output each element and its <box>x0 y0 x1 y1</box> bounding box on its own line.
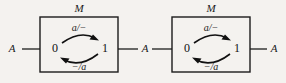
signal-middle-label: A <box>141 42 149 54</box>
state-0-label: 0 <box>184 41 190 55</box>
machine-label: M <box>205 2 216 14</box>
transition-label-one-to-zero: −/a <box>204 61 219 72</box>
state-1-label: 1 <box>102 41 108 55</box>
transition-label-zero-to-one: a/− <box>72 22 87 33</box>
state-0-label: 0 <box>52 41 58 55</box>
transition-label-zero-to-one: a/− <box>204 22 219 33</box>
machine-right: M 0 1 a/− −/a <box>172 2 250 72</box>
arrowhead-left-icon <box>192 58 202 64</box>
arrowhead-left-icon <box>60 58 70 64</box>
state-machine-cascade-figure: M 0 1 a/− −/a M 0 1 a/− <box>0 0 286 83</box>
diagram-canvas: M 0 1 a/− −/a M 0 1 a/− <box>0 0 286 83</box>
machine-label: M <box>73 2 84 14</box>
machine-left: M 0 1 a/− −/a <box>40 2 118 72</box>
signal-input-left-label: A <box>8 42 16 54</box>
transition-label-one-to-zero: −/a <box>72 61 87 72</box>
state-1-label: 1 <box>234 41 240 55</box>
signal-output-right-label: A <box>270 42 278 54</box>
